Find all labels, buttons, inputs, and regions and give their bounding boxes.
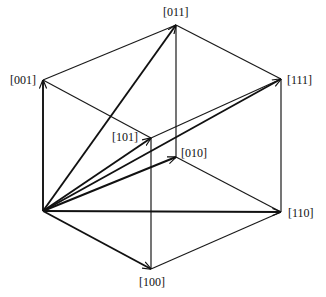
edge-101-111 bbox=[151, 79, 281, 138]
direction-labels: [001] [011] [111] [101] [010] [110] [100… bbox=[10, 5, 314, 289]
edge-010-110 bbox=[176, 157, 281, 212]
label-111: [111] bbox=[287, 73, 312, 87]
cube-edges bbox=[43, 25, 281, 269]
direction-vectors bbox=[43, 25, 281, 269]
vector-110 bbox=[43, 211, 281, 212]
label-011: [011] bbox=[163, 5, 189, 19]
edge-100-110 bbox=[151, 212, 281, 269]
label-100: [100] bbox=[139, 275, 165, 289]
label-001: [001] bbox=[10, 73, 36, 87]
label-101: [101] bbox=[112, 130, 138, 144]
cube-diagram: [001] [011] [111] [101] [010] [110] [100… bbox=[0, 0, 326, 297]
label-010: [010] bbox=[181, 146, 207, 160]
label-110: [110] bbox=[288, 206, 314, 220]
edge-011-111 bbox=[176, 25, 281, 79]
vector-100 bbox=[43, 211, 151, 269]
